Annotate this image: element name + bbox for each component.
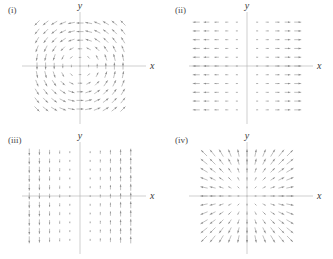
vector-arrow xyxy=(39,167,41,172)
vector-arrow xyxy=(121,107,125,111)
vector-arrow xyxy=(113,38,117,43)
vector-arrow xyxy=(86,91,92,93)
vector-arrow xyxy=(122,46,124,52)
vector-arrow xyxy=(238,212,239,215)
vector-arrow xyxy=(59,212,60,215)
vector-arrow xyxy=(90,222,91,223)
vector-arrow xyxy=(103,30,108,34)
vector-arrow xyxy=(69,204,70,205)
vector-arrow xyxy=(266,57,269,58)
vector-field-plot-iii xyxy=(0,130,166,259)
vector-arrow xyxy=(247,178,248,181)
vector-arrow xyxy=(103,99,108,103)
vector-arrow xyxy=(255,168,256,172)
vector-arrow xyxy=(90,160,91,161)
vector-arrow xyxy=(110,238,111,242)
vector-arrow xyxy=(225,30,228,31)
vector-arrow xyxy=(285,74,290,76)
panel-ii: (ii) y x xyxy=(167,0,333,129)
vector-arrow xyxy=(49,220,50,224)
vector-arrow xyxy=(122,54,124,60)
vector-arrow xyxy=(49,185,50,189)
vector-arrow xyxy=(90,239,91,240)
vector-arrow xyxy=(28,184,30,190)
vector-arrow xyxy=(96,73,98,77)
vector-arrow xyxy=(100,239,101,242)
vector-arrow xyxy=(70,48,74,50)
vector-arrow xyxy=(103,21,108,24)
vector-arrow xyxy=(130,149,132,155)
vector-arrow xyxy=(90,187,91,188)
vector-arrow xyxy=(110,185,111,189)
vector-arrow xyxy=(69,152,70,153)
vector-arrow xyxy=(69,91,75,93)
vector-arrow xyxy=(215,48,219,49)
vector-arrow xyxy=(90,178,91,179)
vector-arrow xyxy=(110,159,111,163)
vector-arrow xyxy=(204,100,209,102)
vector-arrow xyxy=(201,228,207,233)
vector-arrow xyxy=(219,168,223,172)
vector-arrow xyxy=(122,80,124,86)
vector-arrow xyxy=(49,177,50,181)
vector-arrow xyxy=(60,90,65,93)
vector-arrow xyxy=(36,72,38,78)
vector-arrow xyxy=(79,57,81,58)
vector-arrow xyxy=(69,39,75,41)
vector-arrow xyxy=(59,239,60,242)
vector-arrow xyxy=(215,21,219,22)
vector-arrow xyxy=(52,30,57,34)
vector-arrow xyxy=(279,150,284,156)
vector-arrow xyxy=(279,228,284,233)
vector-arrow xyxy=(271,168,275,172)
x-axis-label-iii: x xyxy=(150,191,154,201)
vector-arrow xyxy=(229,178,232,181)
vector-arrow xyxy=(219,236,223,243)
vector-arrow xyxy=(193,39,199,41)
vector-arrow xyxy=(130,210,132,216)
vector-arrow xyxy=(266,48,269,49)
vector-arrow xyxy=(276,65,280,66)
vector-arrow xyxy=(44,38,48,43)
vector-field-plot-i xyxy=(0,0,166,129)
vector-arrow xyxy=(238,168,239,172)
vector-arrow xyxy=(285,100,290,102)
vector-arrow xyxy=(271,159,275,164)
vector-arrow xyxy=(215,83,219,84)
vector-arrow xyxy=(62,56,64,60)
vector-arrow xyxy=(238,204,239,205)
vector-arrow xyxy=(263,196,266,197)
vector-arrow xyxy=(255,212,256,215)
vector-arrow xyxy=(60,108,66,110)
vector-arrow xyxy=(210,159,215,164)
vector-arrow xyxy=(39,185,41,190)
vector-arrow xyxy=(285,39,290,41)
vector-arrow xyxy=(279,186,284,188)
vector-arrow xyxy=(120,150,122,155)
vector-arrow xyxy=(210,236,215,242)
vector-arrow xyxy=(69,160,70,161)
vector-arrow xyxy=(295,65,301,67)
vector-arrow xyxy=(59,204,60,207)
vector-arrow xyxy=(215,30,219,31)
y-axis-label-i: y xyxy=(78,1,82,11)
vector-arrow xyxy=(210,168,215,172)
vector-arrow xyxy=(266,109,269,110)
vector-arrow xyxy=(28,228,30,234)
x-axis-label-iv: x xyxy=(317,191,321,201)
vector-arrow xyxy=(255,159,257,164)
vector-arrow xyxy=(279,212,284,215)
vector-arrow xyxy=(276,57,280,58)
vector-arrow xyxy=(39,150,41,155)
vector-arrow xyxy=(236,30,237,31)
vector-arrow xyxy=(266,39,269,40)
vector-arrow xyxy=(130,202,132,208)
vector-arrow xyxy=(204,48,209,50)
vector-arrow xyxy=(28,219,30,225)
vector-arrow xyxy=(285,91,290,93)
vector-arrow xyxy=(279,220,284,224)
vector-arrow xyxy=(100,160,101,163)
vector-arrow xyxy=(53,72,55,78)
vector-arrow xyxy=(246,159,248,164)
vector-arrow xyxy=(219,220,223,224)
